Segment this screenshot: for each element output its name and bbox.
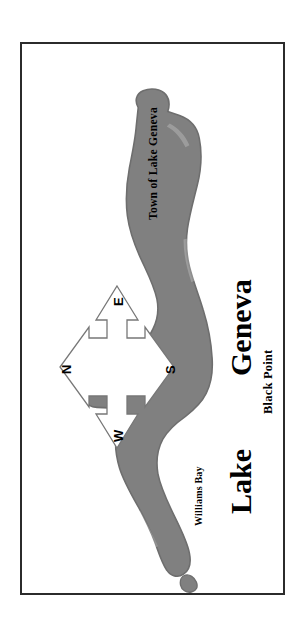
compass-label-west: W	[112, 430, 125, 442]
label-lake: Lake	[226, 449, 256, 514]
map-frame: Town of Lake Geneva Lake Geneva Black Po…	[20, 42, 285, 595]
compass-rose-icon	[56, 282, 178, 452]
compass-cross-arrows	[60, 286, 174, 448]
compass-label-south: S	[164, 365, 177, 374]
label-geneva: Geneva	[226, 279, 256, 376]
label-black-point: Black Point	[262, 350, 275, 414]
label-williams-bay: Williams Bay	[194, 466, 204, 526]
compass-label-north: N	[60, 365, 73, 374]
compass-label-east: E	[112, 297, 125, 306]
label-town-of-lake-geneva: Town of Lake Geneva	[148, 107, 160, 220]
lake-outlet-nub	[180, 575, 197, 592]
compass-rose	[56, 282, 178, 452]
page-canvas: Town of Lake Geneva Lake Geneva Black Po…	[0, 0, 305, 635]
